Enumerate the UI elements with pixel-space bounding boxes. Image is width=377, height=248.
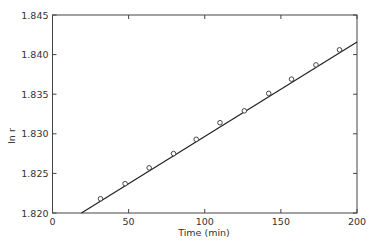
tick-labels: 0501001502001.8201.8251.8301.8351.8401.8… (21, 10, 366, 228)
x-tick-label: 50 (123, 216, 135, 227)
data-point (123, 181, 128, 186)
chart: 0501001502001.8201.8251.8301.8351.8401.8… (0, 0, 377, 248)
y-tick-label: 1.830 (21, 128, 48, 139)
data-point (337, 48, 342, 53)
plot-frame (53, 15, 358, 213)
data-point (147, 166, 152, 171)
y-tick-label: 1.845 (21, 10, 48, 21)
data-point (98, 196, 103, 201)
y-axis-label: ln r (6, 128, 17, 144)
data-point (314, 63, 319, 68)
y-tick-label: 1.825 (21, 168, 48, 179)
x-tick-label: 150 (272, 216, 290, 227)
data-point (171, 151, 176, 156)
data-point (266, 91, 271, 96)
x-tick-label: 0 (49, 216, 55, 227)
data-point (242, 109, 247, 114)
x-tick-label: 200 (348, 216, 366, 227)
plot-border (53, 15, 358, 213)
data-point (289, 77, 294, 82)
x-axis-label: Time (min) (177, 227, 230, 238)
y-tick-label: 1.820 (21, 208, 48, 219)
data-points (98, 48, 342, 201)
x-tick-label: 100 (196, 216, 214, 227)
y-tick-label: 1.840 (21, 49, 48, 60)
data-point (194, 137, 199, 142)
data-point (218, 120, 223, 125)
y-tick-label: 1.835 (21, 89, 48, 100)
axis-ticks (53, 15, 358, 213)
